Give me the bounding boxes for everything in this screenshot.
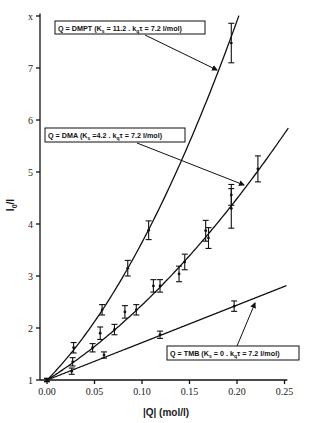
data-points (44, 23, 261, 381)
x-tick-label: 0.25 (276, 386, 294, 397)
dma-data-point (150, 280, 156, 292)
y-tick-label: x (28, 11, 33, 22)
svg-text:Q = DMPT (Ks = 11.2 . kqτ = 7: Q = DMPT (Ks = 11.2 . kqτ = 7.2 l/mol) (58, 24, 183, 34)
x-tick-label: 0.15 (181, 386, 199, 397)
x-axis-title: |Q| (mol/l) (143, 407, 189, 418)
stern-volmer-chart: 0.000.050.100.150.200.251234567x I0/I |Q… (0, 0, 311, 423)
tmb-arrow (237, 303, 255, 346)
dmpt-data-point (146, 221, 152, 240)
x-tick-label: 0.05 (86, 386, 104, 397)
tmb-label: Q = TMB (Ks = 0 . kqτ = 7.2 l/mol) (167, 346, 299, 360)
dma-data-point (111, 324, 117, 334)
y-tick-label: 5 (28, 167, 33, 178)
y-tick-label: 7 (28, 63, 33, 74)
tmb-fit-curve (47, 286, 286, 380)
svg-text:Q = TMB (Ks = 0 . kqτ = 7.2 l: Q = TMB (Ks = 0 . kqτ = 7.2 l/mol) (170, 349, 280, 359)
fit-curves (47, 16, 288, 380)
x-tick-label: 0.20 (228, 386, 246, 397)
dma-fit-curve (47, 128, 288, 380)
dma-label: Q = DMA (Ks =4.2 . kqτ = 7.2 l/mol) (45, 128, 185, 142)
dma-data-point (90, 344, 96, 352)
dma-data-point (122, 306, 128, 318)
tmb-data-point (231, 301, 237, 311)
dma-arrow (137, 143, 244, 185)
dmpt-label: Q = DMPT (Ks = 11.2 . kqτ = 7.2 l/mol) (55, 21, 205, 34)
dmpt-arrow (145, 35, 217, 70)
y-tick-label: 1 (28, 375, 33, 386)
dmpt-data-point (125, 260, 131, 276)
svg-text:Q = DMA (Ks =4.2 . kqτ = 7.2: Q = DMA (Ks =4.2 . kqτ = 7.2 l/mol) (48, 131, 163, 141)
y-tick-label: 6 (28, 115, 33, 126)
x-tick-label: 0.00 (38, 386, 56, 397)
y-tick-label: 4 (28, 219, 33, 230)
dma-data-point (176, 266, 182, 282)
y-axis-title: I0/I (5, 199, 18, 211)
dma-data-point (133, 305, 139, 315)
tick-labels: 0.000.050.100.150.200.251234567x (28, 11, 293, 398)
x-tick-label: 0.10 (133, 386, 151, 397)
dma-data-point (182, 254, 188, 270)
axes (36, 13, 287, 384)
y-tick-label: 3 (28, 271, 33, 282)
dma-data-point (97, 327, 103, 339)
dmpt-fit-curve (47, 16, 239, 380)
y-tick-label: 2 (28, 323, 33, 334)
